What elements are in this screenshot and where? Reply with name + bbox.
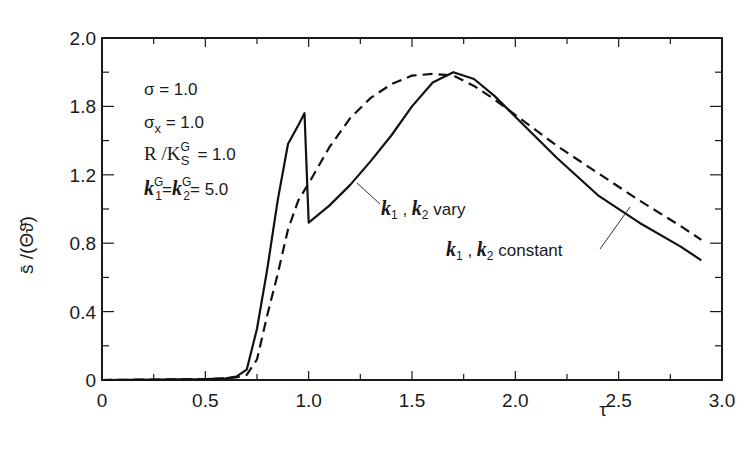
y-tick-label: 0.4 xyxy=(70,302,97,323)
x-tick-label: 1.0 xyxy=(295,390,321,411)
y-tick-label: 1.2 xyxy=(70,165,96,186)
x-tick-label: 3.0 xyxy=(709,390,735,411)
leader-vary xyxy=(357,183,380,204)
leader-constant xyxy=(600,207,630,249)
x-tick-label: 2.0 xyxy=(502,390,528,411)
y-axis-label: s̄ /(Θϑ̄) xyxy=(16,216,37,274)
legend-constant-label: k1 , k2 constant xyxy=(446,238,563,263)
param-r-ks: R /KGS= 1.0 xyxy=(144,140,236,168)
x-tick-label: 1.5 xyxy=(399,390,425,411)
y-tick-label: 0.8 xyxy=(70,233,96,254)
param-sigma: σ = 1.0 xyxy=(144,80,198,99)
x-tick-label: 0.5 xyxy=(192,390,218,411)
x-axis-label: τ xyxy=(599,399,607,420)
legend-vary-label: k1 , k2 vary xyxy=(381,197,466,222)
param-sigma-x: σx = 1.0 xyxy=(144,113,204,136)
x-tick-label: 0 xyxy=(97,390,108,411)
y-tick-label: 1.8 xyxy=(70,96,96,117)
x-tick-label: 2.5 xyxy=(605,390,631,411)
chart: 00.51.01.52.02.53.000.40.81.21.82.0τs̄ /… xyxy=(0,0,747,449)
y-tick-label: 2.0 xyxy=(70,28,96,49)
param-k: kG1=kG2= 5.0 xyxy=(144,175,228,203)
y-tick-label: 0 xyxy=(85,370,96,391)
